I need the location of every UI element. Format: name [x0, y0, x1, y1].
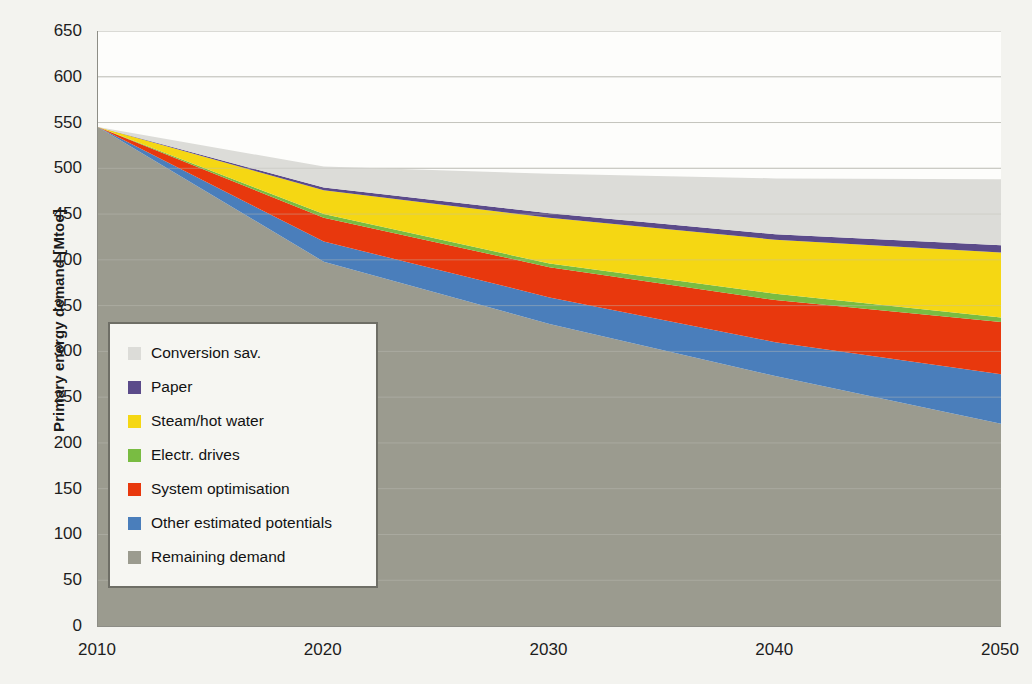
- x-tick-label: 2050: [981, 640, 1019, 660]
- legend-swatch-icon: [128, 517, 141, 530]
- y-tick-label: 650: [30, 21, 82, 41]
- y-tick-label: 150: [30, 479, 82, 499]
- y-tick-label: 100: [30, 524, 82, 544]
- y-tick-label: 550: [30, 113, 82, 133]
- y-tick-label: 0: [30, 616, 82, 636]
- legend-swatch-icon: [128, 449, 141, 462]
- chart-container: Primary energy demand [Mtoe] 05010015020…: [0, 0, 1032, 684]
- chart-legend: Conversion sav.PaperSteam/hot waterElect…: [108, 322, 378, 588]
- legend-swatch-icon: [128, 381, 141, 394]
- y-tick-label: 400: [30, 250, 82, 270]
- y-tick-label: 600: [30, 67, 82, 87]
- y-tick-label: 50: [30, 570, 82, 590]
- legend-item[interactable]: Paper: [110, 370, 376, 404]
- y-tick-label: 300: [30, 341, 82, 361]
- legend-swatch-icon: [128, 415, 141, 428]
- x-tick-label: 2040: [755, 640, 793, 660]
- legend-item-label: Other estimated potentials: [151, 514, 332, 532]
- legend-item[interactable]: Remaining demand: [110, 540, 376, 574]
- legend-item[interactable]: System optimisation: [110, 472, 376, 506]
- legend-item-label: System optimisation: [151, 480, 290, 498]
- legend-item[interactable]: Other estimated potentials: [110, 506, 376, 540]
- legend-swatch-icon: [128, 483, 141, 496]
- y-tick-label: 450: [30, 204, 82, 224]
- y-axis-ticks: 050100150200250300350400450500550600650: [26, 0, 82, 684]
- legend-item[interactable]: Electr. drives: [110, 438, 376, 472]
- x-tick-label: 2030: [530, 640, 568, 660]
- x-axis-ticks: 20102020203020402050: [0, 640, 1032, 670]
- legend-item-label: Steam/hot water: [151, 412, 264, 430]
- y-tick-label: 500: [30, 158, 82, 178]
- legend-item[interactable]: Conversion sav.: [110, 336, 376, 370]
- y-tick-label: 200: [30, 433, 82, 453]
- legend-item-label: Electr. drives: [151, 446, 240, 464]
- legend-item[interactable]: Steam/hot water: [110, 404, 376, 438]
- y-tick-label: 250: [30, 387, 82, 407]
- y-tick-label: 350: [30, 296, 82, 316]
- legend-item-label: Paper: [151, 378, 192, 396]
- legend-item-label: Remaining demand: [151, 548, 285, 566]
- legend-item-label: Conversion sav.: [151, 344, 261, 362]
- x-tick-label: 2010: [78, 640, 116, 660]
- x-tick-label: 2020: [304, 640, 342, 660]
- legend-swatch-icon: [128, 347, 141, 360]
- legend-swatch-icon: [128, 551, 141, 564]
